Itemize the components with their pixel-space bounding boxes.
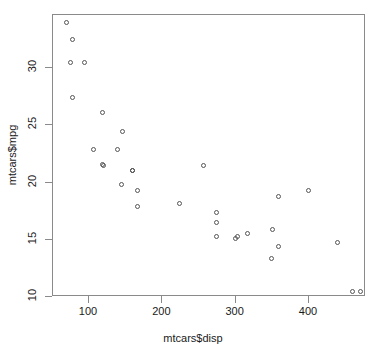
y-tick-25: [45, 124, 52, 125]
y-axis-title-text: mtcars$mpg: [6, 125, 18, 186]
y-tick-15: [45, 239, 52, 240]
x-tick-200: [161, 296, 162, 303]
y-tick-label-text: 10: [26, 289, 38, 301]
y-tick-label-text: 30: [26, 60, 38, 72]
scatter-plot-figure: 1015202530 100200300400 mtcars$disp mtca…: [0, 0, 386, 355]
y-tick-label-text: 15: [26, 232, 38, 244]
x-tick-300: [235, 296, 236, 303]
plot-frame: [52, 14, 365, 296]
x-tick-label-400: 400: [288, 305, 328, 317]
x-tick-label-200: 200: [141, 305, 181, 317]
y-tick-label-text: 25: [26, 117, 38, 129]
x-tick-400: [308, 296, 309, 303]
x-tick-label-300: 300: [215, 305, 255, 317]
y-tick-30: [45, 67, 52, 68]
x-tick-label-100: 100: [68, 305, 108, 317]
x-axis-title: mtcars$disp: [0, 332, 386, 344]
x-tick-100: [88, 296, 89, 303]
y-tick-label-text: 20: [26, 174, 38, 186]
y-tick-10: [45, 296, 52, 297]
y-tick-20: [45, 182, 52, 183]
y-axis-title: mtcars$mpg: [2, 0, 22, 310]
